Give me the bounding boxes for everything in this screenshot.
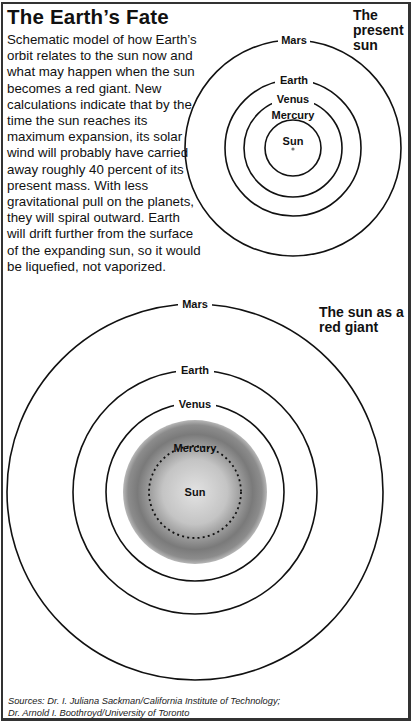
red-giant-sun-label: Sun xyxy=(185,486,206,498)
red-giant-mars-label: Mars xyxy=(182,298,208,310)
present-diagram: Mars Earth Venus Mercury Sun xyxy=(185,33,401,256)
red-giant-diagram: Mars Earth Venus Mercury Sun xyxy=(7,297,383,680)
present-venus-label: Venus xyxy=(277,93,309,105)
present-sun-label: Sun xyxy=(283,135,304,147)
present-sun-dot-icon xyxy=(291,147,294,150)
red-giant-earth-label: Earth xyxy=(181,364,209,376)
present-mercury-label: Mercury xyxy=(272,109,316,121)
present-mars-label: Mars xyxy=(281,34,307,46)
orbit-diagrams: Mars Earth Venus Mercury Sun Mars Earth … xyxy=(0,0,416,725)
sources-line-2: Dr. Arnold I. Boothroyd/University of To… xyxy=(8,707,280,719)
red-giant-mercury-label: Mercury xyxy=(174,442,218,454)
sources-line-1: Sources: Dr. I. Juliana Sackman/Californ… xyxy=(8,695,280,707)
red-giant-venus-label: Venus xyxy=(179,398,211,410)
sources-credit: Sources: Dr. I. Juliana Sackman/Californ… xyxy=(8,695,280,719)
present-earth-label: Earth xyxy=(280,74,308,86)
